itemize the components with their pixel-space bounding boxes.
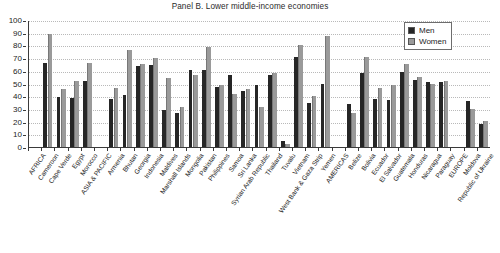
bar-women	[483, 121, 488, 147]
x-tick-mark	[186, 148, 187, 151]
bar-group	[214, 21, 227, 147]
legend-item-women: Women	[408, 36, 446, 47]
y-tick-label: 60	[13, 68, 22, 76]
legend-label-women: Women	[419, 38, 446, 46]
x-tick-mark	[318, 148, 319, 151]
bar-group	[253, 21, 266, 147]
x-tick-mark	[464, 148, 465, 151]
legend-swatch-men-icon	[408, 27, 415, 34]
y-tick-mark	[23, 59, 26, 60]
y-tick-label: 90	[13, 30, 22, 38]
bar-women	[180, 107, 185, 147]
x-tick-mark	[279, 148, 280, 151]
x-tick-mark	[213, 148, 214, 151]
y-tick-label: 80	[13, 42, 22, 50]
bar-group	[319, 21, 332, 147]
bar-women	[312, 96, 317, 147]
bar-women	[417, 77, 422, 147]
x-tick-mark	[292, 148, 293, 151]
bar-women	[259, 107, 264, 147]
bar-group	[135, 21, 148, 147]
bar-group	[451, 21, 464, 147]
bar-group	[29, 21, 42, 147]
y-tick-mark	[23, 21, 26, 22]
bar-women	[74, 81, 79, 147]
legend-swatch-women-icon	[408, 38, 415, 45]
x-tick-mark	[398, 148, 399, 151]
bar-women	[153, 58, 158, 147]
chart-title: Panel B. Lower middle-income economies	[0, 2, 500, 11]
y-tick-label: 10	[13, 131, 22, 139]
x-tick-mark	[477, 148, 478, 151]
bar-women	[430, 84, 435, 147]
bar-group	[280, 21, 293, 147]
bar-women	[206, 47, 211, 147]
y-tick-mark	[23, 123, 26, 124]
x-tick-mark	[437, 148, 438, 151]
bar-group	[108, 21, 121, 147]
x-tick-mark	[200, 148, 201, 151]
bar-group	[187, 21, 200, 147]
bar-group	[55, 21, 68, 147]
y-tick-label: 0	[18, 144, 22, 152]
x-tick-mark	[424, 148, 425, 151]
x-tick-mark	[68, 148, 69, 151]
x-tick-mark	[358, 148, 359, 151]
x-tick-mark	[107, 148, 108, 151]
bar-group	[227, 21, 240, 147]
bar-women	[470, 109, 475, 147]
y-tick-mark	[23, 148, 26, 149]
bar-women	[114, 88, 119, 147]
legend-label-men: Men	[419, 27, 435, 35]
bar-women	[298, 45, 303, 147]
y-tick-mark	[23, 85, 26, 86]
x-tick-mark	[94, 148, 95, 151]
bar-women	[272, 73, 277, 147]
y-tick-mark	[23, 46, 26, 47]
bar-group	[174, 21, 187, 147]
bar-women	[232, 94, 237, 147]
x-axis-labels: AFRICACameroonCape VerdeEgyptMoroccoASIA…	[28, 152, 490, 253]
x-tick-mark	[134, 148, 135, 151]
bar-women	[364, 57, 369, 147]
x-tick-mark	[384, 148, 385, 151]
bar-group	[121, 21, 134, 147]
x-tick-mark	[226, 148, 227, 151]
bar-women	[61, 89, 66, 147]
y-tick-mark	[23, 97, 26, 98]
bar-women	[193, 75, 198, 147]
bar-group	[372, 21, 385, 147]
x-tick-mark	[252, 148, 253, 151]
y-tick-label: 40	[13, 93, 22, 101]
bar-women	[219, 85, 224, 147]
y-tick-label: 20	[13, 119, 22, 127]
y-tick-mark	[23, 34, 26, 35]
bar-women	[444, 81, 449, 147]
y-axis: 0102030405060708090100	[0, 21, 26, 148]
y-tick-label: 30	[13, 106, 22, 114]
bar-women	[378, 88, 383, 147]
bar-group	[267, 21, 280, 147]
bar-group	[69, 21, 82, 147]
x-tick-mark	[371, 148, 372, 151]
bar-women	[246, 89, 251, 147]
x-tick-mark	[81, 148, 82, 151]
y-tick-mark	[23, 110, 26, 111]
x-tick-mark	[411, 148, 412, 151]
y-tick-label: 70	[13, 55, 22, 63]
bar-group	[82, 21, 95, 147]
x-tick-mark	[147, 148, 148, 151]
bar-chart: Panel B. Lower middle-income economies 0…	[0, 0, 500, 253]
x-tick-mark	[41, 148, 42, 151]
y-tick-mark	[23, 72, 26, 73]
bar-group	[95, 21, 108, 147]
bar-group	[359, 21, 372, 147]
bar-group	[161, 21, 174, 147]
x-tick-mark	[160, 148, 161, 151]
bar-women	[127, 50, 132, 147]
x-tick-mark	[305, 148, 306, 151]
bar-women	[325, 36, 330, 147]
y-tick-label: 50	[13, 81, 22, 89]
x-tick-mark	[120, 148, 121, 151]
bar-women	[285, 144, 290, 147]
